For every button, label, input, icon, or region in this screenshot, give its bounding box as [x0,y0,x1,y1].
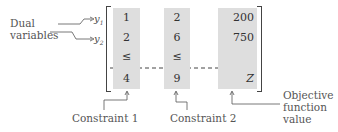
cell: 6 [164,31,190,44]
cell: 750 [218,31,254,44]
cell: Z [218,72,254,85]
y1-label: y1 [94,13,103,26]
cell: 2 [164,11,190,24]
objective-label-line2: function [283,101,327,113]
objective-label-line1: Objective [283,89,333,101]
dual-label-line2: variables [10,29,59,41]
right-bracket [257,6,262,92]
cell: 200 [218,11,254,24]
y2-label: y2 [94,33,103,46]
constraint-1-label: Constraint 1 [72,112,138,124]
cell: 1 [113,11,140,24]
cell: 4 [113,72,140,85]
dual-label-line1: Dual [10,17,35,29]
cell: 2 [113,31,140,44]
left-bracket [106,6,111,92]
cell: 9 [164,72,190,85]
cell: ≤ [164,50,190,63]
cell: ≤ [113,50,140,63]
constraint-2-label: Constraint 2 [170,112,236,124]
objective-label-line3: value [283,113,312,125]
